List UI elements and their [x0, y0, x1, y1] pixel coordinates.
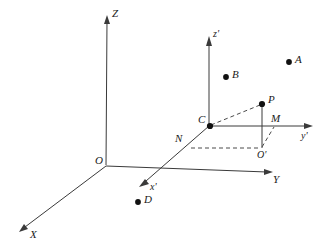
point-m-label: M — [271, 113, 280, 124]
x-prime-axis-label: x' — [150, 182, 157, 192]
point-p-label: P — [268, 94, 275, 105]
point-dots-group — [135, 59, 292, 205]
y-axis-line — [106, 166, 267, 172]
y-prime-axis-label: y' — [301, 131, 308, 141]
secondary-axes-group — [139, 36, 313, 187]
z-axis-label: Z — [112, 8, 118, 19]
y-prime-axis-arrow-icon — [304, 123, 313, 129]
z-axis-line — [106, 20, 107, 165]
y-axis-label: Y — [273, 174, 279, 185]
point-b-label: B — [232, 69, 239, 80]
point-n-label: N — [175, 133, 182, 144]
segment-o-prime-m — [262, 127, 274, 147]
point-b-dot — [223, 74, 229, 80]
point-c-label: C — [198, 114, 205, 125]
geometry-diagram: Z Y X z' y' x' O C P A B D N M O' — [0, 0, 329, 251]
point-d-dot — [135, 199, 141, 205]
diagram-canvas — [0, 0, 329, 251]
z-axis-arrow-icon — [104, 15, 110, 24]
z-prime-axis-arrow-icon — [206, 36, 212, 46]
z-prime-axis-label: z' — [213, 29, 219, 39]
point-p-dot — [259, 101, 265, 107]
y-axis-arrow-icon — [264, 169, 273, 175]
point-o-label: O — [95, 155, 103, 166]
point-a-dot — [286, 59, 292, 65]
point-c-dot — [207, 123, 213, 129]
x-axis-line — [25, 166, 106, 227]
point-o-prime-label: O' — [257, 150, 266, 160]
point-d-label: D — [144, 194, 152, 205]
x-axis-label: X — [30, 229, 37, 240]
point-a-label: A — [295, 54, 302, 65]
segment-c-p — [211, 105, 260, 125]
